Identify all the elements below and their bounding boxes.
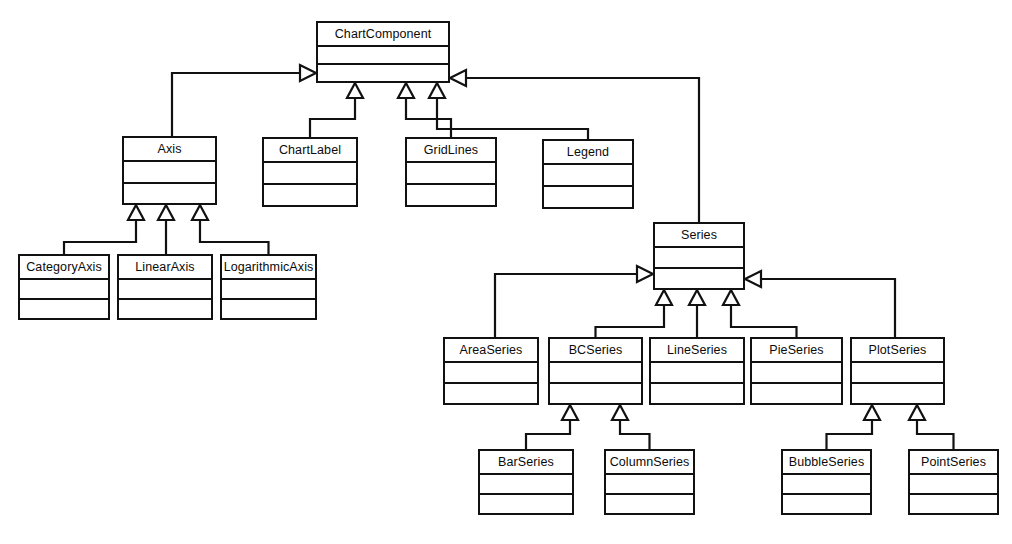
class-operations-pieseries <box>752 384 841 403</box>
association-arrowhead-r10 <box>745 271 761 287</box>
class-attributes-axis <box>124 162 215 184</box>
class-operations-pointseries <box>910 495 997 513</box>
uml-class-diagram: ChartComponentAxisChartLabelGridLinesLeg… <box>0 0 1012 544</box>
generalization-arrowhead-r13 <box>723 290 739 305</box>
class-operations-categoryaxis <box>20 300 108 318</box>
class-box-bcseries[interactable]: BCSeries <box>548 337 643 405</box>
generalization-arrowhead-r12 <box>689 290 705 305</box>
generalization-arrowhead-r15 <box>612 405 628 420</box>
class-attributes-lineseries <box>651 363 743 384</box>
relationship-line-r14 <box>526 420 570 449</box>
class-box-plotseries[interactable]: PlotSeries <box>850 337 945 405</box>
class-operations-bcseries <box>550 384 641 403</box>
relationship-line-r10 <box>761 279 895 337</box>
class-name-pieseries: PieSeries <box>752 339 841 363</box>
class-box-columnseries[interactable]: ColumnSeries <box>604 449 695 515</box>
class-name-axis: Axis <box>124 138 215 162</box>
class-name-categoryaxis: CategoryAxis <box>20 256 108 280</box>
class-box-lineseries[interactable]: LineSeries <box>649 337 745 405</box>
class-operations-linearaxis <box>119 300 211 318</box>
relationship-line-r1 <box>172 73 300 136</box>
class-name-pointseries: PointSeries <box>910 451 997 475</box>
class-box-chartlabel[interactable]: ChartLabel <box>262 137 358 207</box>
class-box-barseries[interactable]: BarSeries <box>478 449 574 515</box>
class-name-series: Series <box>655 224 743 248</box>
class-box-legend[interactable]: Legend <box>542 139 634 209</box>
class-attributes-legend <box>544 165 632 187</box>
class-attributes-plotseries <box>852 363 943 384</box>
class-name-areaseries: AreaSeries <box>445 339 537 363</box>
class-box-series[interactable]: Series <box>653 222 745 290</box>
generalization-arrowhead-r5 <box>429 83 445 98</box>
class-box-linearaxis[interactable]: LinearAxis <box>117 254 213 320</box>
generalization-arrowhead-r16 <box>864 405 880 420</box>
class-box-pieseries[interactable]: PieSeries <box>750 337 843 405</box>
relationship-line-r3 <box>310 98 355 137</box>
generalization-arrowhead-r11 <box>656 290 672 305</box>
class-box-axis[interactable]: Axis <box>122 136 217 205</box>
generalization-arrowhead-r14 <box>562 405 578 420</box>
class-name-gridlines: GridLines <box>407 139 495 163</box>
association-arrowhead-r2 <box>450 70 466 86</box>
generalization-arrowhead-r4 <box>398 83 414 98</box>
class-name-columnseries: ColumnSeries <box>606 451 693 475</box>
association-arrowhead-r9 <box>637 266 653 282</box>
class-attributes-pointseries <box>910 475 997 495</box>
class-operations-logarithmicaxis <box>222 300 315 318</box>
class-attributes-columnseries <box>606 475 693 495</box>
generalization-arrowhead-r3 <box>347 83 363 98</box>
class-name-barseries: BarSeries <box>480 451 572 475</box>
class-attributes-barseries <box>480 475 572 495</box>
generalization-arrowhead-r6 <box>128 205 144 220</box>
class-box-pointseries[interactable]: PointSeries <box>908 449 999 515</box>
class-operations-legend <box>544 187 632 207</box>
relationship-line-r8 <box>200 220 269 254</box>
class-attributes-series <box>655 248 743 269</box>
class-name-chartlabel: ChartLabel <box>264 139 356 163</box>
class-box-logarithmicaxis[interactable]: LogarithmicAxis <box>220 254 317 320</box>
class-operations-areaseries <box>445 384 537 403</box>
relationship-line-r5 <box>437 98 588 139</box>
class-operations-chartcomponent <box>318 65 448 81</box>
class-attributes-pieseries <box>752 363 841 384</box>
class-attributes-logarithmicaxis <box>222 280 315 300</box>
relationship-line-r17 <box>917 420 954 449</box>
class-box-chartcomponent[interactable]: ChartComponent <box>316 21 450 83</box>
class-box-gridlines[interactable]: GridLines <box>405 137 497 207</box>
class-box-areaseries[interactable]: AreaSeries <box>443 337 539 405</box>
class-box-categoryaxis[interactable]: CategoryAxis <box>18 254 110 320</box>
class-attributes-linearaxis <box>119 280 211 300</box>
class-name-bubbleseries: BubbleSeries <box>783 451 870 475</box>
class-name-plotseries: PlotSeries <box>852 339 943 363</box>
class-operations-barseries <box>480 495 572 513</box>
class-operations-lineseries <box>651 384 743 403</box>
class-attributes-categoryaxis <box>20 280 108 300</box>
relationship-line-r16 <box>827 420 873 449</box>
class-operations-plotseries <box>852 384 943 403</box>
generalization-arrowhead-r8 <box>192 205 208 220</box>
class-name-legend: Legend <box>544 141 632 165</box>
class-name-chartcomponent: ChartComponent <box>318 23 448 47</box>
relationship-line-r4 <box>406 98 451 137</box>
generalization-arrowhead-r17 <box>909 405 925 420</box>
class-box-bubbleseries[interactable]: BubbleSeries <box>781 449 872 515</box>
class-operations-axis <box>124 184 215 204</box>
class-attributes-chartcomponent <box>318 47 448 65</box>
class-attributes-bcseries <box>550 363 641 384</box>
relationship-line-r15 <box>620 420 650 449</box>
class-attributes-areaseries <box>445 363 537 384</box>
class-attributes-chartlabel <box>264 163 356 185</box>
class-name-lineseries: LineSeries <box>651 339 743 363</box>
generalization-arrowhead-r7 <box>158 205 174 220</box>
class-name-logarithmicaxis: LogarithmicAxis <box>222 256 315 280</box>
relationship-line-r6 <box>64 220 136 254</box>
class-attributes-gridlines <box>407 163 495 185</box>
relationship-line-r13 <box>731 305 797 337</box>
class-operations-columnseries <box>606 495 693 513</box>
class-operations-bubbleseries <box>783 495 870 513</box>
association-arrowhead-r1 <box>300 65 316 81</box>
class-name-linearaxis: LinearAxis <box>119 256 211 280</box>
class-operations-series <box>655 269 743 288</box>
class-operations-gridlines <box>407 185 495 205</box>
class-name-bcseries: BCSeries <box>550 339 641 363</box>
